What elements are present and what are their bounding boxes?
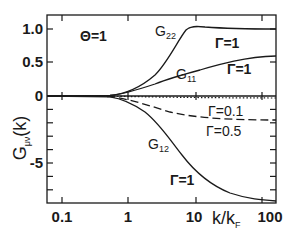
y-axis-title: Gμν(k) (10, 116, 32, 161)
theta-label: Θ=1 (80, 28, 107, 44)
gamma-g12-label: Γ=1 (170, 172, 195, 188)
x-tick-label: 0.1 (52, 208, 73, 225)
y-tick-label: -5 (30, 154, 43, 171)
g22-label: G22 (155, 23, 176, 41)
x-tick-label: 100 (257, 208, 282, 225)
gamma-05-label: Γ=0.5 (206, 123, 242, 139)
y-tick-label: 0.5 (22, 53, 43, 70)
chart: 0.1 1 10 100 1.0 0.5 0 -5 k/kF Gμν(k) Θ=… (0, 0, 290, 233)
y-tick-label: 0 (35, 87, 43, 104)
gamma-g11-label: Γ=1 (227, 61, 252, 77)
x-axis-title: k/kF (212, 208, 241, 230)
gamma-g22-label: Γ=1 (215, 35, 240, 51)
y-tick-label: 1.0 (22, 20, 43, 37)
gamma-01-label: Γ=0.1 (208, 103, 244, 119)
x-tick-label: 10 (186, 208, 203, 225)
g12-label: G12 (148, 136, 169, 154)
x-tick-label: 1 (124, 208, 132, 225)
g11-label: G11 (176, 66, 196, 84)
